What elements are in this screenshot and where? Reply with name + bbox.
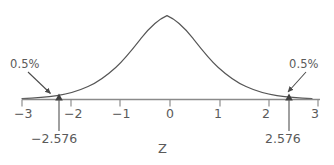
tail-leader-arrow-right <box>288 72 306 92</box>
x-axis-title: Z <box>158 142 167 155</box>
critical-value-label-right: 2.576 <box>265 133 301 146</box>
x-tick-label-two: 2 <box>262 108 270 121</box>
x-tick-label-three: 3 <box>311 108 319 121</box>
x-tick-label-neg1: −1 <box>112 108 130 121</box>
critical-marker-left <box>55 94 63 131</box>
x-tick-label-neg2: −2 <box>64 108 82 121</box>
tail-label-right: 0.5% <box>289 59 319 71</box>
normal-curve-path <box>22 16 312 99</box>
tail-leader-arrow-left <box>28 72 51 94</box>
tail-label-left: 0.5% <box>10 59 40 71</box>
x-tick-label-one: 1 <box>214 108 222 121</box>
x-tick-label-neg3: −3 <box>14 108 32 121</box>
critical-marker-right <box>285 94 293 131</box>
x-tick-label-zero: 0 <box>166 108 174 121</box>
critical-value-label-left: −2.576 <box>31 133 77 146</box>
normal-distribution-figure: 0.5% 0.5% −3 −2 −1 0 1 2 3 −2.576 2.576 … <box>0 0 334 165</box>
